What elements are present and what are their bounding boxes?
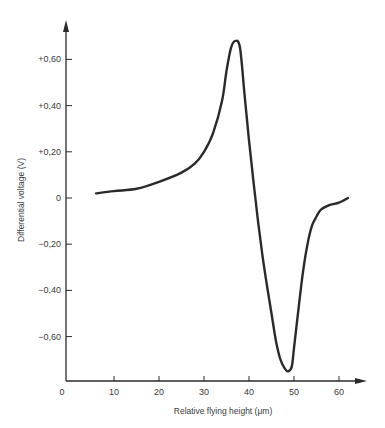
x-tick-label: 30	[199, 387, 209, 397]
x-tick-label: 40	[244, 387, 254, 397]
x-tick-label: 50	[289, 387, 299, 397]
x-tick-label: 20	[154, 387, 164, 397]
x-axis-title: Relative flying height (μm)	[174, 406, 273, 416]
y-tick-label: −0,60	[38, 332, 61, 342]
x-tick-label: 60	[334, 387, 344, 397]
y-tick-label: +0,20	[38, 147, 61, 157]
axes	[63, 20, 367, 384]
x-tick-label: 0	[59, 387, 64, 397]
y-tick-label: +0,40	[38, 101, 61, 111]
y-axis-title: Differential voltage (V)	[16, 158, 26, 242]
y-ticks: +0,60+0,40+0,200−0,20−0,40−0,60	[38, 54, 72, 341]
y-tick-label: 0	[56, 193, 61, 203]
x-tick-label: 10	[109, 387, 119, 397]
y-tick-label: −0,40	[38, 285, 61, 295]
y-tick-label: +0,60	[38, 54, 61, 64]
x-ticks: 0102030405060	[59, 376, 344, 397]
y-axis-arrow-icon	[63, 20, 69, 32]
chart: +0,60+0,40+0,200−0,20−0,40−0,60 01020304…	[0, 0, 385, 428]
x-axis-arrow-icon	[355, 378, 367, 384]
data-curve	[96, 41, 348, 372]
y-tick-label: −0,20	[38, 239, 61, 249]
